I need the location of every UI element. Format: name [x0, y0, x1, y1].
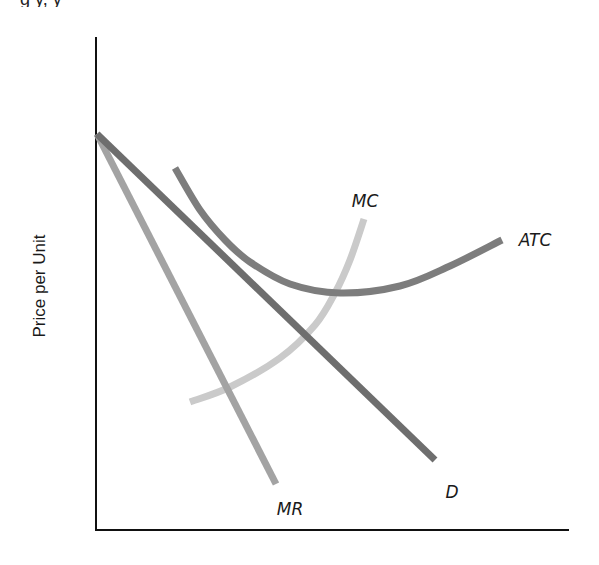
mr-label: MR — [277, 501, 303, 518]
demand-line — [97, 134, 435, 460]
atc-curve — [175, 168, 502, 293]
y-axis-label: Price per Unit — [30, 235, 50, 338]
atc-label: ATC — [519, 232, 552, 249]
mc-label: MC — [352, 193, 379, 210]
economics-diagram: g y, y Price per Unit MC ATC D MR — [0, 0, 599, 565]
d-label: D — [445, 484, 458, 501]
plot-area — [0, 0, 599, 565]
